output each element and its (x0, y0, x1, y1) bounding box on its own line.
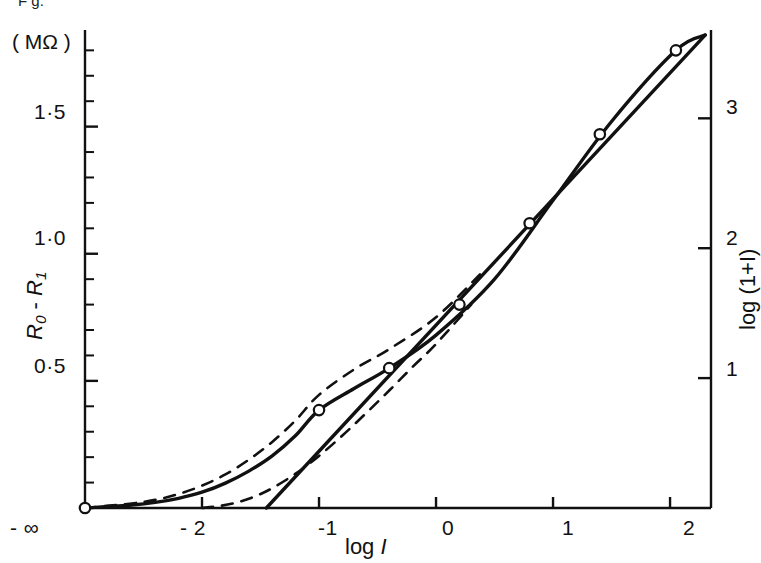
data-point-marker (524, 218, 534, 228)
data-point-marker (80, 503, 90, 513)
curve-linear-asymptote (266, 35, 705, 508)
right-axis-title: log (1+I) (735, 249, 761, 330)
data-point-marker (384, 363, 394, 373)
x-axis-tick-label-1: 1 (562, 516, 574, 540)
left-axis-title-r1-sub: 1 (32, 272, 49, 281)
curve-experimental-curve (85, 35, 705, 508)
right-axis-tick-label-3: 3 (726, 95, 738, 119)
x-axis-tick-label-neg-2: - 2 (180, 516, 206, 540)
left-axis-tick-label-1-0: 1·0 (34, 226, 66, 250)
data-point-markers (80, 45, 681, 513)
x-axis-tick-label-neg-1: -1 (318, 516, 338, 540)
caption-fragment: F g. (18, 0, 44, 9)
x-axis-tick-label-2: 2 (683, 516, 695, 540)
x-axis-title-var: I (380, 534, 386, 559)
left-axis-unit-label: ( MΩ ) (12, 30, 71, 54)
x-axis-tick-label-neg-inf: - ∞ (10, 516, 39, 540)
left-axis-tick-label-1-5: 1·5 (34, 100, 66, 124)
data-point-marker (454, 299, 464, 309)
x-axis-tick-label-0: 0 (442, 516, 454, 540)
curve-theoretical-lower-dashed- (202, 305, 471, 508)
x-axis-title-prefix: log (345, 534, 380, 559)
data-point-marker (595, 129, 605, 139)
curve-theoretical-upper-dashed- (85, 272, 483, 508)
right-axis-tick-label-2: 2 (726, 226, 738, 250)
left-axis-title-r0: R (22, 324, 47, 340)
axes-frame (85, 30, 711, 508)
left-axis-tick-label-0-5: 0·5 (34, 354, 66, 378)
right-axis-tick-label-1: 1 (726, 357, 738, 381)
left-axis-title-r0-sub: 0 (32, 316, 49, 325)
left-axis-title-minus: - (22, 296, 47, 316)
left-axis-title: R0 - R1 (22, 272, 50, 340)
x-axis-title: log I (345, 534, 387, 560)
left-axis-title-r1: R (22, 280, 47, 296)
data-point-marker (671, 45, 681, 55)
data-curves (85, 35, 705, 508)
data-point-marker (314, 405, 324, 415)
